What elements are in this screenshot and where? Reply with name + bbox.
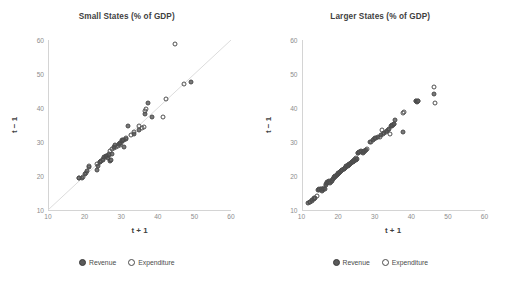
y-tick-label: 10 bbox=[37, 207, 44, 214]
data-point-expenditure bbox=[86, 164, 91, 169]
data-point-expenditure bbox=[364, 147, 369, 152]
open-circle-icon bbox=[382, 259, 389, 266]
x-tick-label: 20 bbox=[334, 213, 341, 220]
y-tick-label: 10 bbox=[290, 207, 297, 214]
data-point-expenditure bbox=[132, 129, 137, 134]
x-axis-line bbox=[48, 210, 231, 211]
data-point-expenditure bbox=[401, 110, 406, 115]
chart-legend: Revenue Expenditure bbox=[254, 259, 507, 266]
y-axis-title: t − 1 bbox=[263, 117, 272, 133]
chart-panel-larger-states: Larger States (% of GDP) 102030405060 10… bbox=[254, 0, 507, 283]
x-tick-label: 10 bbox=[298, 213, 305, 220]
plot-area-small-states: 102030405060 102030405060 bbox=[48, 40, 231, 210]
y-tick-label: 40 bbox=[37, 105, 44, 112]
y-tick-label: 30 bbox=[290, 139, 297, 146]
data-point-expenditure bbox=[182, 81, 187, 86]
legend-label-expenditure: Expenditure bbox=[138, 259, 174, 266]
data-point-revenue bbox=[149, 114, 154, 119]
data-point-revenue bbox=[108, 158, 113, 163]
x-tick-label: 50 bbox=[444, 213, 451, 220]
legend-item-revenue[interactable]: Revenue bbox=[333, 259, 370, 266]
y-tick-label: 50 bbox=[290, 71, 297, 78]
chart-panel-small-states: Small States (% of GDP) 102030405060 102… bbox=[0, 0, 254, 283]
legend-item-revenue[interactable]: Revenue bbox=[79, 259, 116, 266]
data-point-expenditure bbox=[144, 107, 149, 112]
y-tick-label: 60 bbox=[37, 37, 44, 44]
legend-label-expenditure: Expenditure bbox=[392, 259, 428, 266]
x-tick-label: 60 bbox=[227, 213, 234, 220]
open-circle-icon bbox=[128, 259, 135, 266]
data-point-expenditure bbox=[164, 97, 169, 102]
chart-title: Small States (% of GDP) bbox=[0, 12, 254, 21]
x-axis-title: t + 1 bbox=[48, 226, 231, 235]
x-tick-label: 60 bbox=[481, 213, 488, 220]
x-tick-label: 30 bbox=[118, 213, 125, 220]
x-axis-title: t + 1 bbox=[302, 226, 485, 235]
data-point-expenditure bbox=[432, 84, 437, 89]
data-point-expenditure bbox=[432, 101, 437, 106]
x-tick-label: 40 bbox=[408, 213, 415, 220]
y-tick-label: 40 bbox=[290, 105, 297, 112]
data-point-expenditure bbox=[415, 98, 420, 103]
data-point-revenue bbox=[400, 130, 405, 135]
data-point-expenditure bbox=[123, 136, 128, 141]
y-tick-label: 30 bbox=[37, 139, 44, 146]
chart-title: Larger States (% of GDP) bbox=[254, 12, 507, 21]
filled-circle-icon bbox=[333, 259, 340, 266]
data-point-expenditure bbox=[392, 121, 397, 126]
y-tick-label: 60 bbox=[290, 37, 297, 44]
x-tick-label: 30 bbox=[371, 213, 378, 220]
data-point-expenditure bbox=[160, 114, 165, 119]
legend-label-revenue: Revenue bbox=[89, 259, 116, 266]
y-axis-title: t − 1 bbox=[10, 117, 19, 133]
y-tick-label: 20 bbox=[37, 173, 44, 180]
x-tick-label: 10 bbox=[44, 213, 51, 220]
chart-legend: Revenue Expenditure bbox=[0, 259, 254, 266]
data-point-revenue bbox=[189, 80, 194, 85]
plot-area-larger-states: 102030405060 102030405060 bbox=[302, 40, 485, 210]
data-point-expenditure bbox=[83, 170, 88, 175]
legend-item-expenditure[interactable]: Expenditure bbox=[128, 259, 174, 266]
data-point-revenue bbox=[431, 91, 436, 96]
data-point-revenue bbox=[126, 124, 131, 129]
legend-label-revenue: Revenue bbox=[343, 259, 370, 266]
y-tick-label: 50 bbox=[37, 71, 44, 78]
y-axis-line bbox=[48, 40, 49, 210]
x-tick-label: 20 bbox=[81, 213, 88, 220]
filled-circle-icon bbox=[79, 259, 86, 266]
data-point-expenditure bbox=[314, 194, 319, 199]
data-point-expenditure bbox=[141, 125, 146, 130]
data-point-expenditure bbox=[80, 175, 85, 180]
figure-container: Small States (% of GDP) 102030405060 102… bbox=[0, 0, 507, 283]
data-point-revenue bbox=[145, 101, 150, 106]
x-tick-label: 50 bbox=[191, 213, 198, 220]
legend-item-expenditure[interactable]: Expenditure bbox=[382, 259, 428, 266]
data-point-expenditure bbox=[354, 156, 359, 161]
data-point-expenditure bbox=[388, 132, 393, 137]
x-axis-line bbox=[302, 210, 485, 211]
y-tick-label: 20 bbox=[290, 173, 297, 180]
data-point-expenditure bbox=[173, 41, 178, 46]
y-axis-line bbox=[302, 40, 303, 210]
x-tick-label: 40 bbox=[154, 213, 161, 220]
